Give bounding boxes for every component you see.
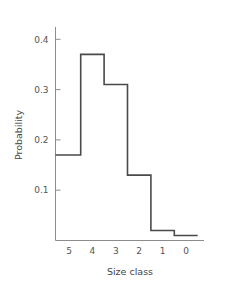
x-tick-label: 3 — [113, 246, 119, 256]
y-tick-label: 0.2 — [34, 135, 48, 145]
x-tick-label: 5 — [66, 246, 72, 256]
x-axis-title: Size class — [107, 266, 153, 277]
x-tick-label: 0 — [183, 246, 189, 256]
histogram-step-line — [56, 54, 198, 235]
x-axis-tick-labels: 543210 — [66, 246, 189, 256]
chart-canvas: 0.40.30.20.1 543210 Size class Probabili… — [0, 0, 229, 289]
y-tick-label: 0.4 — [34, 35, 49, 45]
x-tick-label: 4 — [90, 246, 96, 256]
y-axis-title: Probability — [13, 110, 24, 161]
x-tick-label: 1 — [160, 246, 166, 256]
y-axis-ticks — [56, 39, 61, 190]
y-axis-tick-labels: 0.40.30.20.1 — [34, 35, 49, 196]
y-tick-label: 0.3 — [34, 85, 48, 95]
histogram-figure: 0.40.30.20.1 543210 Size class Probabili… — [0, 0, 229, 289]
x-tick-label: 2 — [136, 246, 142, 256]
y-tick-label: 0.1 — [34, 185, 48, 195]
